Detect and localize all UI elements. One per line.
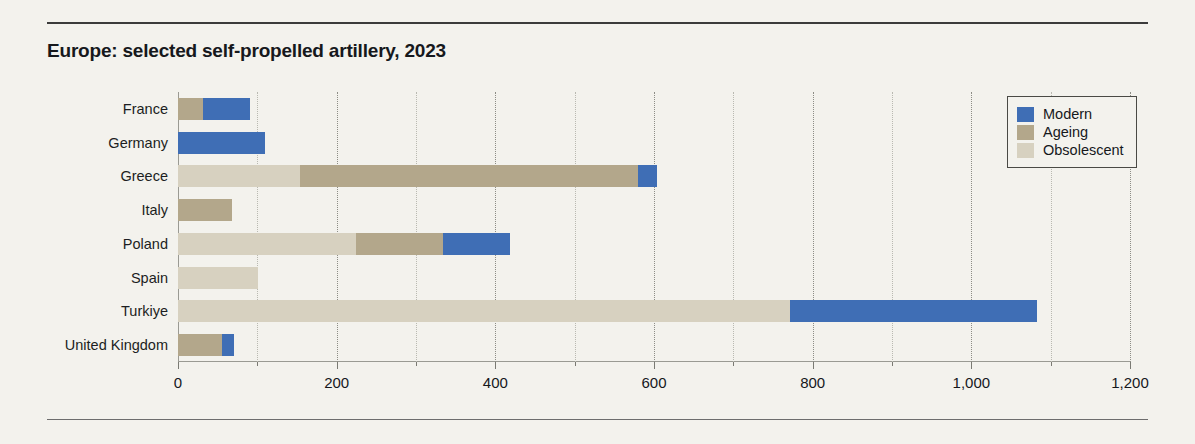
y-axis-label: Poland — [123, 236, 168, 252]
y-axis-label: Germany — [108, 135, 168, 151]
chart-figure: Europe: selected self-propelled artiller… — [0, 0, 1195, 444]
x-tick-label: 800 — [800, 374, 825, 391]
legend-item[interactable]: Obsolescent — [1017, 142, 1124, 158]
page-title: Europe: selected self-propelled artiller… — [47, 40, 446, 62]
bar-row: France — [178, 92, 1130, 126]
legend-item[interactable]: Modern — [1017, 106, 1124, 122]
x-tick-label: 1,200 — [1111, 374, 1149, 391]
chart-legend: ModernAgeingObsolescent — [1007, 96, 1137, 168]
bottom-rule — [47, 419, 1148, 420]
stacked-bar[interactable] — [178, 334, 234, 356]
y-axis-label: Turkiye — [121, 303, 168, 319]
bar-segment-ageing[interactable] — [178, 98, 203, 120]
bar-row: Turkiye — [178, 295, 1130, 329]
bar-segment-modern[interactable] — [638, 165, 657, 187]
bar-segment-modern[interactable] — [203, 98, 250, 120]
y-axis-label: Spain — [131, 270, 168, 286]
x-tick-minor — [416, 362, 417, 366]
bar-segment-modern[interactable] — [178, 132, 265, 154]
x-tick-label: 600 — [641, 374, 666, 391]
legend-swatch-icon — [1017, 143, 1034, 158]
bar-segment-ageing[interactable] — [356, 233, 443, 255]
x-tick-minor — [733, 362, 734, 366]
legend-item[interactable]: Ageing — [1017, 124, 1124, 140]
bar-segment-ageing[interactable] — [178, 334, 222, 356]
y-axis-label: Italy — [141, 202, 168, 218]
x-tick-major — [495, 362, 496, 369]
y-axis-label: Greece — [120, 168, 168, 184]
stacked-bar[interactable] — [178, 132, 265, 154]
x-tick-label: 1,000 — [953, 374, 991, 391]
stacked-bar[interactable] — [178, 267, 258, 289]
bar-segment-ageing[interactable] — [300, 165, 638, 187]
legend-label: Obsolescent — [1043, 142, 1124, 158]
x-tick-major — [813, 362, 814, 369]
legend-label: Ageing — [1043, 124, 1088, 140]
x-tick-label: 0 — [174, 374, 182, 391]
bar-segment-obsolescent[interactable] — [178, 300, 790, 322]
x-tick-major — [337, 362, 338, 369]
bar-segment-obsolescent[interactable] — [178, 267, 258, 289]
bar-row: Italy — [178, 193, 1130, 227]
legend-label: Modern — [1043, 106, 1092, 122]
bar-segment-ageing[interactable] — [178, 199, 232, 221]
stacked-bar[interactable] — [178, 199, 232, 221]
bar-segment-obsolescent[interactable] — [178, 165, 300, 187]
bar-row: United Kingdom — [178, 328, 1130, 362]
x-tick-minor — [892, 362, 893, 366]
legend-swatch-icon — [1017, 125, 1034, 140]
x-tick-label: 400 — [483, 374, 508, 391]
bar-segment-obsolescent[interactable] — [178, 233, 356, 255]
stacked-bar[interactable] — [178, 233, 510, 255]
x-tick-major — [178, 362, 179, 369]
x-tick-minor — [257, 362, 258, 366]
top-rule — [47, 22, 1148, 24]
bar-row: Germany — [178, 126, 1130, 160]
y-axis-label: United Kingdom — [65, 337, 168, 353]
stacked-bar[interactable] — [178, 165, 657, 187]
x-tick-minor — [1051, 362, 1052, 366]
bar-row: Poland — [178, 227, 1130, 261]
x-tick-label: 200 — [324, 374, 349, 391]
x-tick-major — [971, 362, 972, 369]
x-tick-major — [654, 362, 655, 369]
stacked-bar[interactable] — [178, 300, 1037, 322]
legend-swatch-icon — [1017, 107, 1034, 122]
plot-area: FranceGermanyGreeceItalyPolandSpainTurki… — [178, 92, 1130, 362]
y-axis-label: France — [123, 101, 168, 117]
bar-row: Greece — [178, 160, 1130, 194]
stacked-bar[interactable] — [178, 98, 250, 120]
x-tick-minor — [575, 362, 576, 366]
bar-segment-modern[interactable] — [443, 233, 510, 255]
bar-row: Spain — [178, 261, 1130, 295]
bar-segment-modern[interactable] — [222, 334, 234, 356]
bar-segment-modern[interactable] — [790, 300, 1037, 322]
x-tick-major — [1130, 362, 1131, 369]
